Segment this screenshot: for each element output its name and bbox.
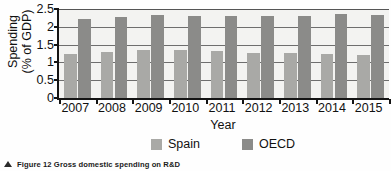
bar-group (357, 9, 384, 98)
bar-oecd-2013 (298, 16, 311, 98)
bar-oecd-2007 (78, 19, 91, 98)
x-axis-tick-label: 2014 (318, 101, 346, 115)
bar-spain-2009 (137, 50, 150, 98)
bar-oecd-2012 (261, 16, 274, 98)
x-axis-tick-label: 2010 (171, 101, 199, 115)
bar-group (247, 9, 274, 98)
bar-oecd-2008 (115, 17, 128, 98)
legend-item-spain: Spain (151, 138, 200, 151)
x-axis-tick-label: 2015 (355, 101, 383, 115)
bar-group (64, 9, 91, 98)
bar-spain-2011 (211, 51, 224, 98)
legend-item-oecd: OECD (242, 138, 295, 151)
figure-caption-row: Figure 12 Gross domestic spending on R&D (0, 157, 391, 171)
y-axis-tick-label: 2 (47, 21, 54, 34)
legend-label: OECD (259, 138, 295, 151)
bar-group (174, 9, 201, 98)
bars-layer (59, 9, 389, 98)
figure-caption: Figure 12 Gross domestic spending on R&D (17, 160, 180, 169)
bar-spain-2014 (321, 54, 334, 98)
bar-spain-2012 (247, 53, 260, 98)
bar-spain-2010 (174, 50, 187, 98)
x-axis-tick-label: 2013 (281, 101, 309, 115)
triangle-marker-icon (4, 161, 12, 167)
bar-spain-2007 (64, 54, 77, 98)
y-axis-tick-labels: 00.511.522.5 (28, 9, 54, 98)
bar-spain-2008 (101, 52, 114, 98)
bar-oecd-2011 (225, 16, 238, 98)
y-axis-tick-label: 1.5 (37, 38, 54, 51)
bar-chart: Spending (% of GDP) 00.511.522.5 2007200… (0, 0, 391, 155)
x-axis-title: Year (57, 118, 389, 132)
legend-swatch-oecd (242, 139, 253, 150)
bar-spain-2013 (284, 53, 297, 98)
x-axis-tick-label: 2009 (135, 101, 163, 115)
bar-spain-2015 (357, 55, 370, 98)
bar-group (321, 9, 348, 98)
x-axis-tick-label: 2011 (209, 101, 236, 115)
bar-group (137, 9, 164, 98)
bar-group (284, 9, 311, 98)
y-axis-tick-label: 1 (47, 56, 54, 69)
y-axis-tick-label: 2.5 (37, 3, 54, 16)
bar-oecd-2015 (371, 15, 384, 98)
x-axis-tick-label: 2012 (245, 101, 273, 115)
bar-oecd-2009 (151, 15, 164, 98)
bar-group (101, 9, 128, 98)
bar-oecd-2010 (188, 16, 201, 98)
x-axis-tick-labels: 200720082009201020112012201320142015 (57, 101, 389, 117)
bar-oecd-2014 (335, 14, 348, 98)
chart-legend: SpainOECD (57, 136, 389, 152)
y-axis-tick-label: 0 (47, 92, 54, 105)
legend-swatch-spain (151, 139, 162, 150)
y-axis-tick-label: 0.5 (37, 74, 54, 87)
x-axis-tick-label: 2008 (98, 101, 126, 115)
x-axis-tick-label: 2007 (61, 101, 89, 115)
bar-group (211, 9, 238, 98)
figure-page: Spending (% of GDP) 00.511.522.5 2007200… (0, 0, 391, 171)
legend-label: Spain (168, 138, 200, 151)
plot-area (57, 9, 389, 100)
